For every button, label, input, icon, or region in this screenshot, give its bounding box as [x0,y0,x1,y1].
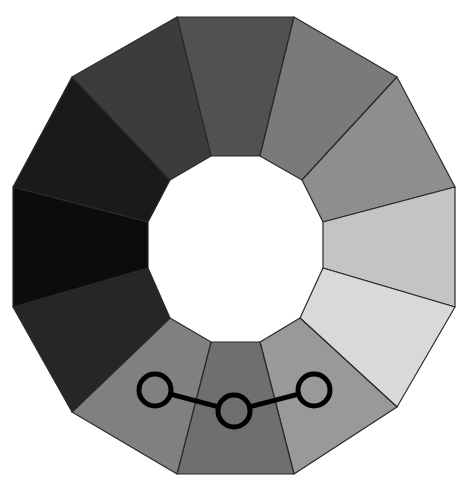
ring-segments [13,17,455,474]
ring-svg [0,0,474,487]
ring-diagram [0,0,474,487]
